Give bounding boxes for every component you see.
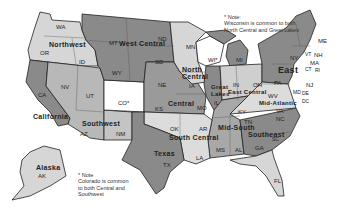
state-fl (230, 150, 284, 196)
note-heading: Note (82, 172, 94, 178)
region-label-southeast: Southeast (248, 131, 285, 138)
state-label-fl: FL (274, 178, 281, 184)
region-label-east: East (278, 66, 298, 75)
state-label-mt: MT (109, 40, 118, 46)
state-label-ky: KY (238, 109, 246, 115)
state-label-or: OR (40, 50, 49, 56)
note-text: Wisconsin is common to both (224, 20, 296, 26)
state-label-al: AL (235, 147, 242, 153)
region-label-california: California (33, 113, 68, 120)
state-label-wy: WY (112, 70, 122, 76)
state-label-md: MD (293, 90, 301, 95)
state-label-wa: WA (56, 24, 65, 30)
region-label-great-lakes-1: Great (211, 84, 228, 90)
state-co (104, 80, 144, 112)
state-label-co: CO* (118, 100, 129, 106)
state-label-ia: IA (189, 83, 195, 89)
state-label-ms: MS (216, 147, 225, 153)
state-label-in: IN (233, 82, 239, 88)
state-label-mi: MI (236, 57, 243, 63)
note-text: Southwest (78, 191, 104, 197)
state-label-id: ID (79, 59, 85, 65)
state-label-sc: SC (272, 137, 279, 142)
us-regions-map: Northwest West Central North Central Gre… (0, 0, 342, 210)
state-label-va: VA (276, 108, 284, 114)
state-label-ga: GA (255, 145, 264, 151)
region-label-great-lakes-2: Lakes (211, 91, 230, 97)
state-label-ak: AK (38, 173, 46, 179)
note-text: to both Central and (78, 185, 125, 191)
state-label-de: DE (302, 91, 309, 96)
state-label-ok: OK (170, 126, 179, 132)
region-label-northwest: Northwest (49, 41, 86, 48)
region-label-south-central: South Central (169, 134, 219, 141)
region-label-north-central-1: North (182, 66, 202, 73)
state-label-la: LA (196, 155, 203, 161)
state-label-me: ME (318, 38, 327, 44)
note-star: * (78, 172, 80, 178)
state-label-ny: NY (290, 55, 298, 61)
state-label-nv: NV (61, 84, 69, 90)
state-label-ri: RI (315, 68, 320, 73)
state-label-sd: SD (155, 59, 163, 65)
state-label-dc: DC (302, 99, 309, 104)
state-label-ut: UT (86, 93, 94, 99)
state-label-mo: MO (197, 105, 207, 111)
region-label-central: Central (168, 100, 194, 107)
state-label-mn: MN (186, 44, 195, 50)
wisconsin-note: * Note: Wisconsin is common to both Nort… (224, 14, 299, 33)
state-label-vt: VT (305, 52, 311, 57)
state-label-ks: KS (155, 106, 163, 112)
note-star: * (224, 14, 226, 20)
state-label-ne: NE (158, 82, 166, 88)
state-label-nc: NC (276, 116, 285, 122)
note-heading: Note: (228, 14, 241, 20)
region-label-mid-atlantic: Mid-Atlantic (259, 100, 297, 106)
note-text: Colorado is common (78, 178, 128, 184)
region-label-texas: Texas (154, 150, 175, 157)
state-label-tn: TN (244, 119, 252, 125)
state-label-az: AZ (80, 131, 88, 137)
colorado-note: * Note Colorado is common to both Centra… (78, 172, 128, 197)
region-label-north-central-2: Central (182, 73, 208, 80)
region-label-east-central: East Central (228, 89, 267, 95)
state-label-wi: WI* (208, 57, 218, 63)
state-label-il: IL (214, 100, 219, 106)
region-label-alaska: Alaska (36, 164, 60, 171)
state-label-ca: CA (38, 92, 46, 98)
state-label-nj: NJ (306, 82, 313, 88)
state-label-oh: OH (253, 82, 262, 88)
state-label-nh: NH (314, 52, 323, 58)
state-label-pa: PA (274, 80, 282, 86)
note-text: North Central and Great Lakes (224, 27, 299, 33)
region-label-mid-south: Mid-South (218, 124, 255, 131)
state-label-nm: NM (116, 131, 125, 137)
state-label-ar: AR (199, 126, 207, 132)
state-label-ct: CT (305, 67, 312, 72)
state-label-nd: ND (158, 36, 167, 42)
region-label-southwest: Southwest (82, 120, 120, 127)
state-label-wv: WV (268, 93, 278, 99)
state-label-tx: TX (163, 162, 171, 168)
